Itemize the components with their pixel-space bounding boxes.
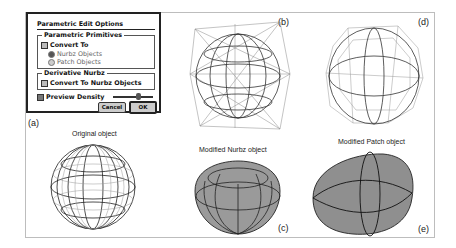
convert-to-nurbz-checkbox[interactable]: Convert To Nurbz Objects (41, 79, 141, 87)
modified-nurbz-object (190, 156, 285, 236)
ok-button[interactable]: OK (129, 101, 157, 114)
convert-to-checkbox[interactable]: Convert To (41, 41, 88, 49)
checkbox-label: Convert To (50, 41, 88, 49)
modified-patch-object (308, 148, 418, 238)
radio-label: Nurbz Objects (57, 50, 102, 58)
radio-selected-icon[interactable] (48, 51, 55, 58)
caption-modified-nurbz: Modified Nurbz object (199, 146, 267, 153)
group-label: Parametric Primitives (42, 31, 124, 39)
checkbox-icon[interactable] (41, 80, 48, 87)
checkbox-label: Preview Density (46, 93, 104, 101)
derivative-nurbz-group: Derivative Nurbz Convert To Nurbz Object… (37, 73, 155, 90)
radio-icon[interactable] (48, 59, 55, 66)
original-sphere-wireframe (48, 142, 138, 232)
caption-modified-patch: Modified Patch object (338, 138, 405, 145)
caption-original-object: Original object (72, 130, 117, 137)
checkbox-label: Convert To Nurbz Objects (50, 79, 141, 87)
group-label: Derivative Nurbz (42, 69, 107, 77)
parametric-edit-options-dialog: Parametric Edit Options Parametric Primi… (26, 12, 161, 113)
cancel-button[interactable]: Cancel (98, 102, 126, 113)
panel-label-a: (a) (28, 118, 39, 128)
panel-label-e: (e) (418, 224, 429, 234)
patch-control-cage (318, 18, 428, 128)
checkbox-checked-icon[interactable] (37, 94, 44, 101)
dialog-title: Parametric Edit Options (37, 20, 155, 30)
preview-density-slider[interactable] (113, 96, 153, 98)
preview-density-checkbox[interactable]: Preview Density (37, 93, 104, 101)
nurbz-control-cage (180, 14, 300, 134)
radio-label: Patch Objects (57, 58, 101, 66)
nurbz-objects-radio[interactable]: Nurbz Objects (48, 50, 102, 58)
checkbox-icon[interactable] (41, 42, 48, 49)
slider-knob[interactable] (136, 93, 141, 100)
parametric-primitives-group: Parametric Primitives Convert To Nurbz O… (37, 35, 155, 69)
patch-objects-radio[interactable]: Patch Objects (48, 58, 101, 66)
